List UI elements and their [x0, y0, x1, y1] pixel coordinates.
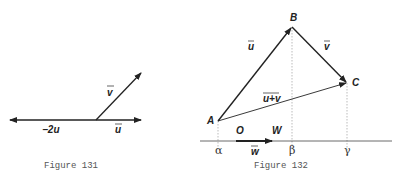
vector-v	[292, 27, 346, 82]
point-A: A	[206, 115, 214, 126]
label-u-plus-v: u+v	[263, 93, 282, 104]
point-O: O	[236, 125, 244, 136]
label-neg2u: −2u	[42, 124, 60, 135]
caption-figure-131: Figure 131	[44, 161, 98, 171]
point-C: C	[352, 77, 360, 88]
vector-v	[96, 73, 141, 120]
caption-figure-132: Figure 132	[254, 161, 308, 171]
diagram-canvas: v u −2u Figure 131 A B C O W u v u+v w	[0, 0, 399, 178]
axis-label-gamma: γ	[344, 144, 351, 157]
label-w: w	[251, 146, 260, 157]
axis-label-beta: β	[289, 144, 295, 157]
vector-u	[218, 28, 291, 121]
figure-132: A B C O W u v u+v w α β γ Figure 132	[200, 12, 392, 171]
label-v: v	[324, 41, 331, 52]
point-B: B	[290, 12, 297, 23]
figure-131: v u −2u Figure 131	[10, 73, 141, 171]
point-W: W	[272, 125, 283, 136]
label-v: v	[107, 87, 114, 98]
axis-label-alpha: α	[215, 144, 223, 157]
label-u: u	[248, 41, 254, 52]
vector-u-plus-v	[218, 83, 346, 121]
label-u: u	[115, 124, 121, 135]
